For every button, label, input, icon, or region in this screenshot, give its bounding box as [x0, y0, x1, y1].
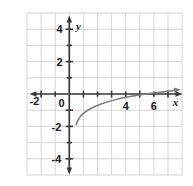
x-tick-label-4: 4: [123, 100, 130, 112]
coordinate-plane-svg: -2 4 6 4 2 -2 -4 0 x y: [0, 0, 193, 186]
y-tick-label-2: 2: [56, 56, 62, 68]
origin-label: 0: [58, 97, 64, 109]
y-tick-label-4: 4: [56, 23, 63, 35]
x-tick-label-neg2: -2: [30, 95, 40, 107]
graph-figure: -2 4 6 4 2 -2 -4 0 x y: [0, 0, 193, 186]
x-tick-label-6: 6: [151, 100, 157, 112]
y-axis-label: y: [74, 20, 81, 32]
y-tick-label-neg2: -2: [52, 121, 62, 133]
y-tick-label-neg4: -4: [52, 153, 63, 165]
x-axis-label: x: [172, 96, 179, 108]
figure-background: [0, 0, 193, 186]
